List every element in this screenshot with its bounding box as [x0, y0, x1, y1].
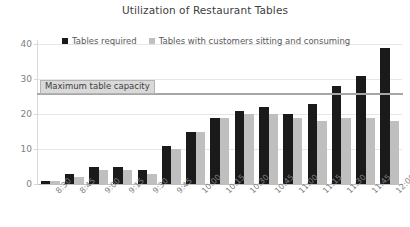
legend-item-tables-seated: Tables with customers sitting and consum… — [149, 36, 351, 46]
bar-group — [329, 44, 353, 184]
x-axis-tick-label: 11:15 — [321, 189, 327, 195]
legend-label-seated: Tables with customers sitting and consum… — [159, 36, 351, 46]
x-axis-tick-label: 11:45 — [370, 189, 376, 195]
y-axis-tick-label: 20 — [8, 110, 32, 119]
bar-group — [62, 44, 86, 184]
bar-group — [208, 44, 232, 184]
bar-tables-seated[interactable] — [147, 174, 157, 185]
x-axis-tick-label: 9:00 — [103, 189, 109, 195]
x-axis-tick-label: 10:45 — [273, 189, 279, 195]
y-axis-tick-label: 10 — [8, 145, 32, 154]
bar-tables-required[interactable] — [332, 86, 342, 184]
bar-group — [353, 44, 377, 184]
bar-group — [305, 44, 329, 184]
bar-tables-seated[interactable] — [244, 114, 254, 184]
bar-tables-seated[interactable] — [293, 118, 303, 185]
bar-group — [87, 44, 111, 184]
bar-tables-seated[interactable] — [123, 170, 133, 184]
bar-tables-seated[interactable] — [390, 121, 400, 184]
bar-tables-seated[interactable] — [366, 118, 376, 185]
bar-tables-seated[interactable] — [341, 118, 351, 185]
y-axis-tick — [34, 184, 38, 185]
x-axis-tick-label: 9:45 — [175, 189, 181, 195]
bar-group — [378, 44, 402, 184]
bar-tables-seated[interactable] — [99, 170, 109, 184]
legend-item-tables-required: Tables required — [62, 36, 137, 46]
bar-tables-seated[interactable] — [171, 149, 181, 184]
x-axis-tick-label: 9:30 — [151, 189, 157, 195]
bar-group — [159, 44, 183, 184]
plot-area — [38, 44, 402, 184]
x-axis-tick-label: 10:15 — [224, 189, 230, 195]
max-capacity-label: Maximum table capacity — [40, 80, 155, 94]
y-axis-tick-label: 0 — [8, 180, 32, 189]
y-axis-tick-label: 30 — [8, 75, 32, 84]
x-axis-tick-label: 10:30 — [248, 189, 254, 195]
x-axis-tick-label: 9:15 — [127, 189, 133, 195]
x-axis-tick-label: 11:00 — [297, 189, 303, 195]
x-axis-tick-labels: 8:308:459:009:159:309:4510:0010:1510:301… — [38, 186, 402, 226]
bar-group — [256, 44, 280, 184]
x-axis-tick-label: 11:30 — [345, 189, 351, 195]
legend-swatch-seated — [149, 38, 155, 44]
bar-tables-seated[interactable] — [317, 121, 327, 184]
x-axis-tick-label: 8:45 — [78, 189, 84, 195]
legend-swatch-required — [62, 38, 68, 44]
bar-group — [281, 44, 305, 184]
bar-tables-required[interactable] — [356, 76, 366, 185]
bar-group — [184, 44, 208, 184]
x-axis-tick-label: 12:00 — [394, 189, 400, 195]
bar-group — [111, 44, 135, 184]
y-axis-tick-label: 40 — [8, 40, 32, 49]
chart-legend: Tables required Tables with customers si… — [62, 36, 362, 46]
bar-tables-required[interactable] — [380, 48, 390, 185]
bar-tables-seated[interactable] — [269, 114, 279, 184]
bar-group — [38, 44, 62, 184]
bar-group — [135, 44, 159, 184]
x-axis-tick-label: 10:00 — [200, 189, 206, 195]
legend-label-required: Tables required — [72, 36, 137, 46]
bar-tables-required[interactable] — [41, 181, 51, 185]
bar-group — [232, 44, 256, 184]
x-axis-tick-label: 8:30 — [54, 189, 60, 195]
bar-tables-seated[interactable] — [196, 132, 206, 185]
bar-tables-seated[interactable] — [220, 118, 230, 185]
chart-container: Utilization of Restaurant Tables 0102030… — [0, 0, 410, 227]
